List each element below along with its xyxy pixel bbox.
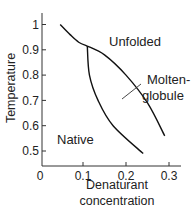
label-molten-line-2: globule [142,88,184,103]
y-tick-label: 1 [32,18,39,32]
y-tick-label: 0.8 [22,68,39,82]
y-tick-label: 0.9 [22,43,39,57]
boundary-curve [60,25,87,47]
y-axis-title: Temperature [4,53,18,123]
label-molten-line-1: Molten- [147,72,190,87]
x-tick-label: 0 [37,169,44,183]
chart: 0.50.60.70.80.9100.10.20.3 UnfoldedMolte… [0,0,195,219]
y-tick-label: 0.7 [22,94,39,108]
label-native: Native [57,132,94,147]
x-tick-label: 0.3 [161,169,178,183]
y-tick-label: 0.5 [22,144,39,158]
y-tick-label: 0.6 [22,119,39,133]
x-axis-title-line-1: Denaturant [86,178,148,192]
molten-globule-leader-line [122,84,141,99]
boundary-curve [87,46,143,154]
annotations: UnfoldedMolten-globuleNative [57,34,190,147]
x-axis-title-line-2: concentration [79,194,154,208]
label-unfolded: Unfolded [109,34,161,49]
